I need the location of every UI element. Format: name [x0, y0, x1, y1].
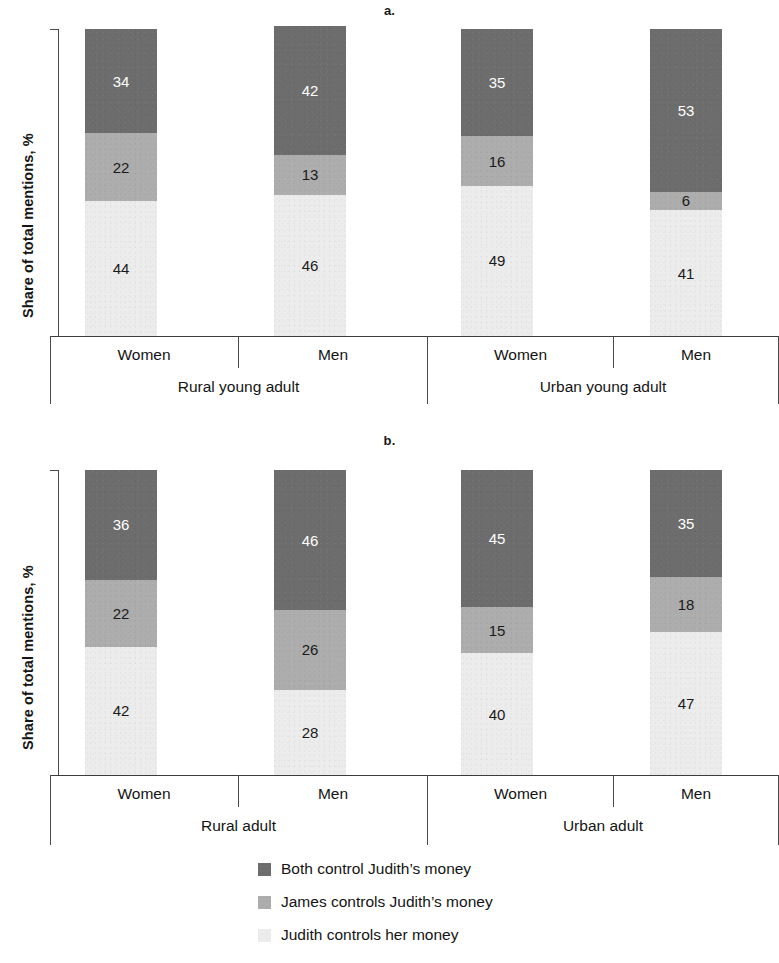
bar-segment-judith: 49 — [461, 186, 533, 336]
legend-item-james[interactable]: James controls Judith’s money — [258, 891, 493, 913]
bar-segment-both: 46 — [274, 470, 346, 610]
panel-a-category-0: Women — [50, 346, 238, 364]
bar-segment-judith: 28 — [274, 690, 346, 775]
panel-b-category-1: Men — [239, 785, 427, 803]
bar-a-0: 342244 — [85, 29, 157, 336]
panel-a-group-1: Urban young adult — [428, 378, 778, 396]
panel-a-group-0: Rural young adult — [50, 378, 427, 396]
bar-segment-value: 28 — [302, 725, 319, 740]
bar-a-2: 351649 — [461, 29, 533, 336]
bar-segment-value: 22 — [113, 160, 130, 175]
bar-segment-both: 53 — [650, 29, 722, 192]
panel-b-group-0: Rural adult — [50, 817, 427, 835]
bar-a-1: 421346 — [274, 26, 346, 336]
legend-item-both[interactable]: Both control Judith’s money — [258, 858, 471, 880]
bar-segment-value: 44 — [113, 261, 130, 276]
bar-segment-value: 40 — [489, 707, 506, 722]
bar-a-3: 53641 — [650, 29, 722, 336]
panel-b-category-0: Women — [50, 785, 238, 803]
bar-segment-value: 53 — [678, 103, 695, 118]
bar-segment-value: 46 — [302, 258, 319, 273]
bar-segment-value: 35 — [678, 516, 695, 531]
bar-segment-james: 16 — [461, 136, 533, 185]
bar-segment-value: 13 — [302, 167, 319, 182]
bar-segment-value: 16 — [489, 154, 506, 169]
bar-b-2: 451540 — [461, 470, 533, 775]
panel-b-x-axis — [50, 775, 779, 776]
bar-segment-both: 35 — [650, 470, 722, 577]
panel-a-category-1: Men — [239, 346, 427, 364]
panel-b-group-1: Urban adult — [428, 817, 778, 835]
bar-segment-judith: 40 — [461, 653, 533, 775]
legend-label-judith: Judith controls her money — [281, 926, 458, 944]
chart-legend: Both control Judith’s moneyJames control… — [0, 850, 779, 963]
bar-segment-judith: 47 — [650, 632, 722, 775]
panel-a-category-3: Men — [614, 346, 778, 364]
bar-segment-value: 41 — [678, 266, 695, 281]
panel-a-title: a. — [0, 3, 779, 18]
bar-segment-judith: 42 — [85, 647, 157, 775]
bar-segment-value: 36 — [113, 517, 130, 532]
panel-b-category-2: Women — [428, 785, 613, 803]
bar-segment-value: 15 — [489, 623, 506, 638]
bar-segment-james: 22 — [85, 580, 157, 647]
bar-segment-value: 45 — [489, 531, 506, 546]
bar-segment-value: 34 — [113, 74, 130, 89]
legend-label-james: James controls Judith’s money — [281, 893, 493, 911]
bar-segment-value: 42 — [113, 703, 130, 718]
panel-a-x-axis — [50, 336, 779, 337]
bar-segment-both: 45 — [461, 470, 533, 607]
legend-swatch-icon-judith — [258, 929, 271, 942]
legend-item-judith[interactable]: Judith controls her money — [258, 924, 458, 946]
bar-b-1: 462628 — [274, 470, 346, 775]
chart-panel-b: b. Share of total mentions, % 3622424626… — [0, 430, 779, 850]
bar-segment-both: 36 — [85, 470, 157, 580]
bar-segment-judith: 41 — [650, 210, 722, 336]
bar-segment-value: 49 — [489, 253, 506, 268]
bar-b-0: 362242 — [85, 470, 157, 775]
bar-segment-value: 47 — [678, 696, 695, 711]
legend-label-both: Both control Judith’s money — [281, 860, 471, 878]
bar-b-3: 351847 — [650, 470, 722, 775]
bar-segment-james: 18 — [650, 577, 722, 632]
bar-segment-both: 42 — [274, 26, 346, 155]
bar-segment-james: 13 — [274, 155, 346, 195]
panel-b-title: b. — [0, 433, 779, 448]
panel-b-category-3: Men — [614, 785, 778, 803]
bar-segment-value: 22 — [113, 606, 130, 621]
bar-segment-value: 26 — [302, 642, 319, 657]
legend-swatch-icon-both — [258, 863, 271, 876]
bar-segment-james: 15 — [461, 607, 533, 653]
chart-panel-a: a. Share of total mentions, % 3422444213… — [0, 0, 779, 430]
bar-segment-james: 6 — [650, 192, 722, 210]
panel-a-category-2: Women — [428, 346, 613, 364]
bar-segment-judith: 44 — [85, 201, 157, 336]
legend-swatch-icon-james — [258, 896, 271, 909]
bar-segment-value: 35 — [489, 75, 506, 90]
bar-segment-value: 18 — [678, 597, 695, 612]
bar-segment-value: 42 — [302, 83, 319, 98]
bar-segment-both: 35 — [461, 29, 533, 136]
bar-segment-james: 26 — [274, 610, 346, 689]
bar-segment-both: 34 — [85, 29, 157, 133]
bar-segment-value: 6 — [682, 193, 690, 208]
bar-segment-james: 22 — [85, 133, 157, 201]
bar-segment-judith: 46 — [274, 195, 346, 336]
bar-segment-value: 46 — [302, 533, 319, 548]
